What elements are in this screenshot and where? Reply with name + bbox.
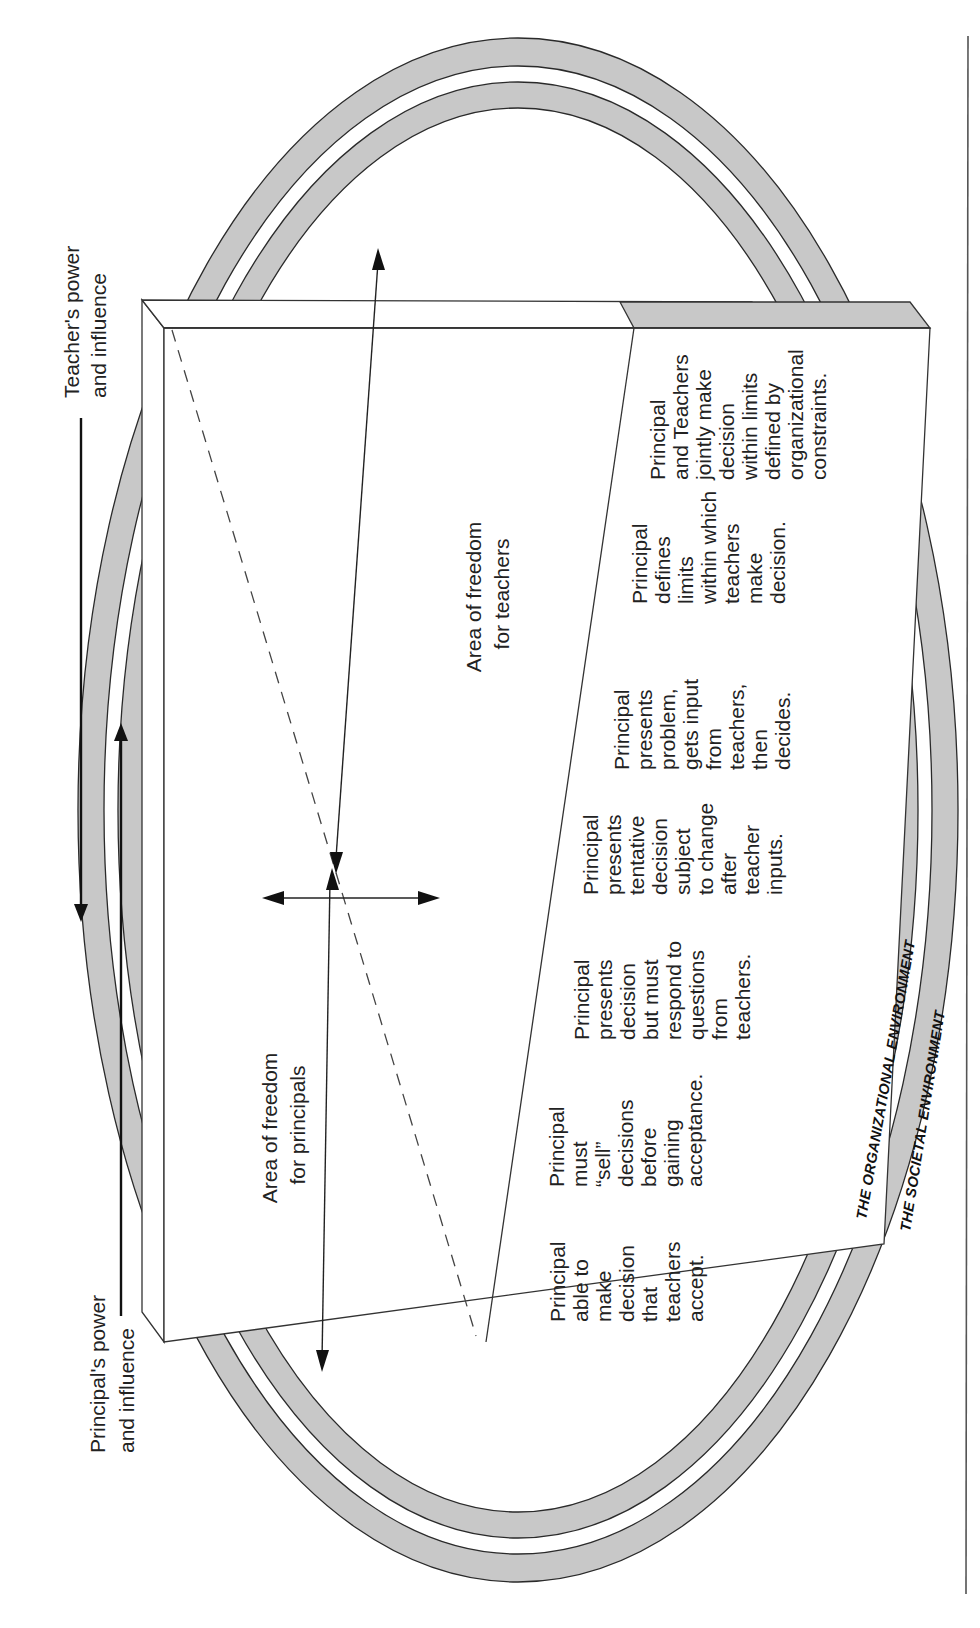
leadership-continuum-diagram: Teacher's power and influence Principal'…: [0, 0, 980, 1628]
principal-power-label: Principal's power and influence: [86, 1289, 138, 1453]
page-margin-rule: [966, 36, 968, 1594]
teacher-power-label: Teacher's power and influence: [60, 240, 110, 398]
